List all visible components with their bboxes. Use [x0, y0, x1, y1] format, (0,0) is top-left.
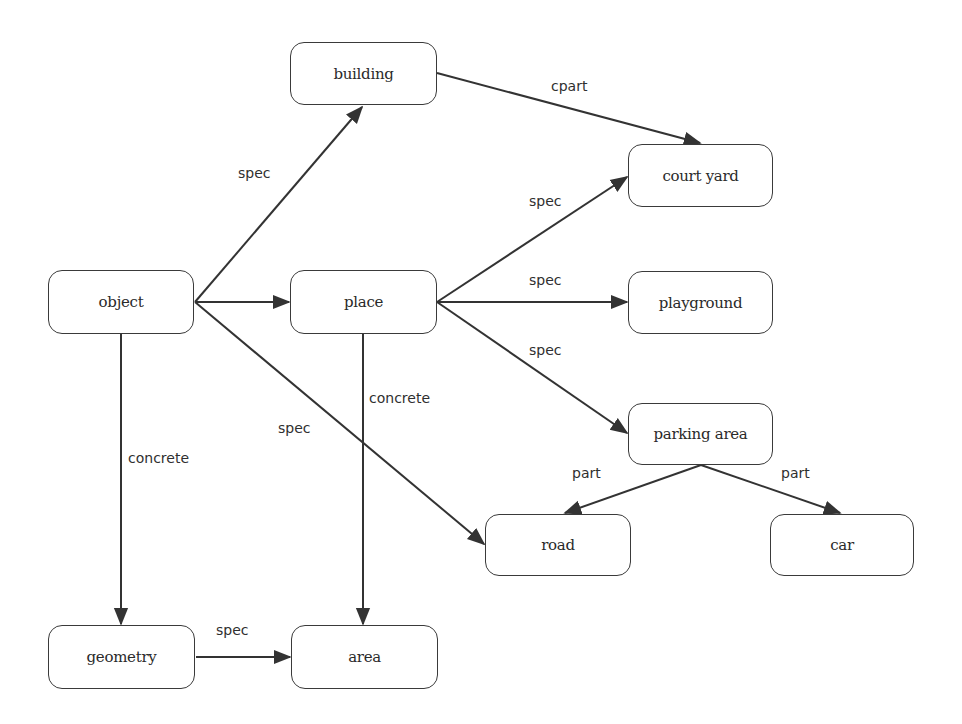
- edge-label-spec: spec: [216, 622, 249, 638]
- edge-label-spec: spec: [529, 193, 562, 209]
- node-place: place: [290, 270, 437, 334]
- node-area: area: [291, 625, 438, 689]
- node-parking-area: parking area: [628, 403, 773, 465]
- node-label: playground: [659, 294, 743, 312]
- edge-label-spec: spec: [529, 342, 562, 358]
- concept-diagram: buildingobjectplacecourt yardplaygroundp…: [0, 0, 962, 724]
- node-label: car: [830, 536, 854, 554]
- node-label: court yard: [662, 167, 738, 185]
- node-label: object: [99, 293, 144, 311]
- edge-label-concrete: concrete: [128, 450, 189, 466]
- edge-object-to-road-arrow: [195, 302, 484, 544]
- edge-label-part: part: [572, 465, 601, 481]
- edge-label-spec: spec: [529, 272, 562, 288]
- node-label: parking area: [654, 425, 748, 443]
- edge-label-spec: spec: [278, 420, 311, 436]
- node-label: road: [541, 536, 575, 554]
- node-car: car: [770, 514, 914, 576]
- node-label: building: [333, 65, 393, 83]
- edge-label-part: part: [781, 465, 810, 481]
- node-label: place: [344, 293, 383, 311]
- node-label: area: [348, 648, 381, 666]
- edge-label-cpart: cpart: [551, 78, 587, 94]
- edge-place-to-parking-area-arrow: [437, 302, 627, 433]
- node-playground: playground: [628, 271, 773, 334]
- edge-label-concrete: concrete: [369, 390, 430, 406]
- edges-layer: [0, 0, 962, 724]
- node-road: road: [485, 514, 631, 576]
- node-court-yard: court yard: [628, 144, 773, 207]
- edge-label-spec: spec: [238, 165, 271, 181]
- node-label: geometry: [87, 648, 157, 666]
- edge-parking-area-to-car-arrow: [701, 465, 840, 513]
- node-geometry: geometry: [48, 625, 195, 689]
- node-building: building: [290, 42, 437, 105]
- node-object: object: [48, 270, 194, 334]
